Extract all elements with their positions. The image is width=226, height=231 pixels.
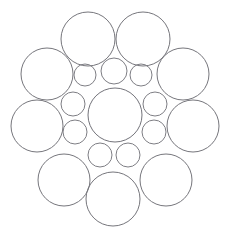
outer-circle-lower-right <box>167 100 219 152</box>
inner-circle-right-upper <box>143 92 167 116</box>
inner-circle-right-lower <box>142 120 166 144</box>
inner-circle-left-lower <box>63 120 87 144</box>
inner-circle-top-right <box>130 64 152 86</box>
outer-circle-top-left <box>61 12 115 66</box>
outer-circle-top-right <box>116 12 170 66</box>
inner-circle-bottom-right <box>116 143 140 167</box>
circles-layer <box>11 12 219 226</box>
outer-circle-bottom-left <box>38 154 90 206</box>
outer-circle-bottom <box>86 172 140 226</box>
inner-circle-bottom-left <box>88 143 112 167</box>
outer-circle-upper-right <box>157 48 209 100</box>
outer-circle-bottom-right <box>140 154 192 206</box>
center-circle <box>88 88 142 142</box>
outer-circle-lower-left <box>11 100 63 152</box>
circle-packing-figure <box>0 0 226 231</box>
inner-circle-top <box>101 58 127 84</box>
inner-circle-left-upper <box>61 92 85 116</box>
circle-packing-canvas <box>0 0 226 231</box>
outer-circle-upper-left <box>21 48 73 100</box>
inner-circle-top-left <box>74 64 96 86</box>
